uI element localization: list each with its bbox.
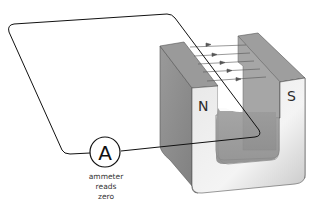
south-pole-label: S	[287, 88, 296, 104]
ammeter: A	[90, 137, 120, 167]
induction-diagram: N S A	[0, 0, 315, 212]
ammeter-symbol: A	[98, 141, 112, 165]
caption-line-3: zero	[84, 192, 128, 202]
north-pole-label: N	[198, 98, 208, 114]
ammeter-caption: ammeter reads zero	[84, 172, 128, 202]
magnet-inner-shade	[216, 108, 279, 164]
caption-line-2: reads	[84, 182, 128, 192]
caption-line-1: ammeter	[84, 172, 128, 182]
horseshoe-magnet: N S	[160, 33, 305, 193]
